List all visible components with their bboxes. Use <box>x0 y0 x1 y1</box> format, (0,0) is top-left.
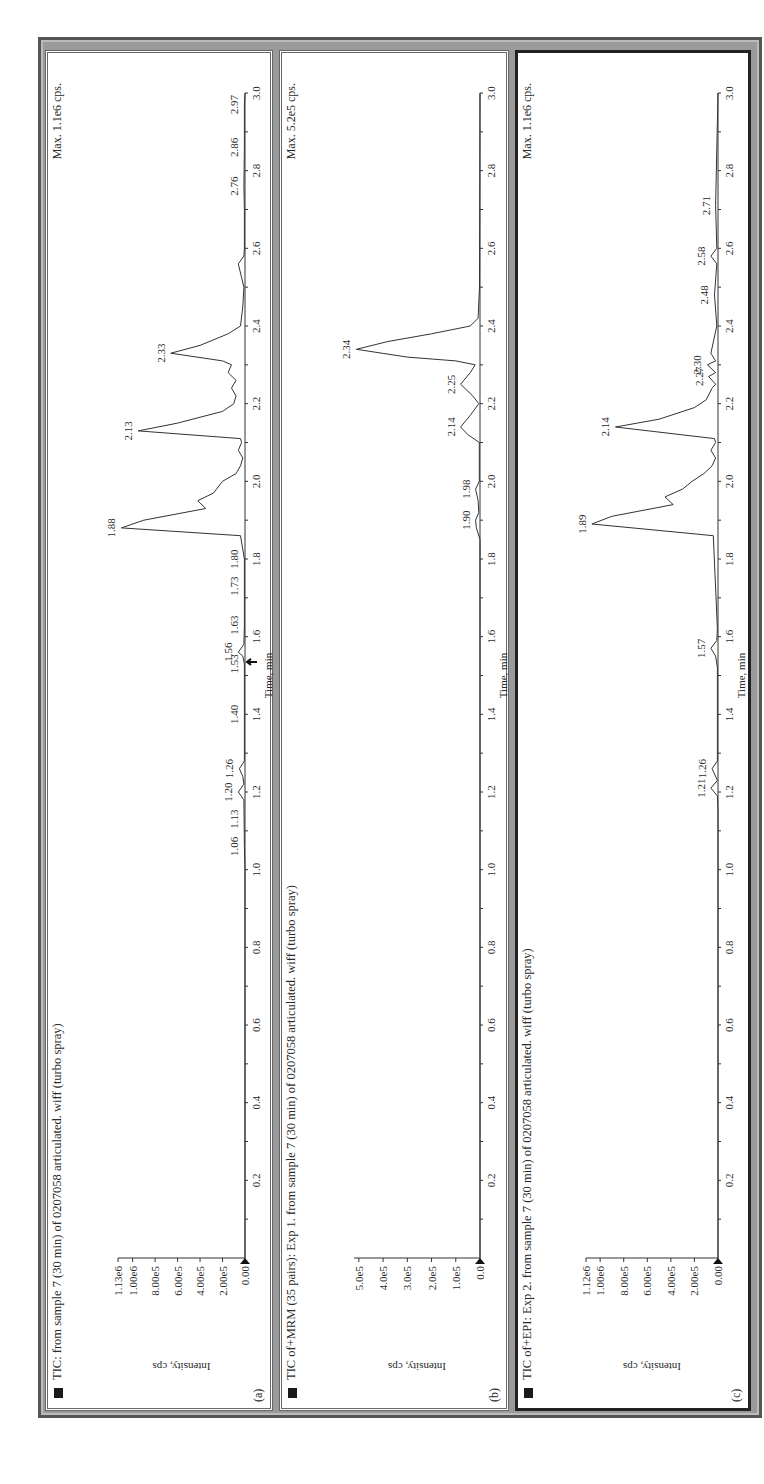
x-tick-label: 2.2 <box>250 397 262 411</box>
y-tick-label: 3.0e5 <box>401 1266 413 1291</box>
peak-label: 1.13 <box>228 809 240 829</box>
x-tick-label: 0.8 <box>250 940 262 954</box>
x-tick-label: 1.0 <box>485 862 497 876</box>
y-tick-label: 0.00 <box>239 1266 251 1286</box>
x-tick-label: 2.0 <box>723 474 735 488</box>
x-tick-label: 2.0 <box>250 474 262 488</box>
y-tick-label: 1.13e6 <box>112 1266 124 1296</box>
panel-c: TIC of+EPI: Exp 2. from sample 7 (30 min… <box>515 50 751 1411</box>
x-tick-label: 2.2 <box>485 397 497 411</box>
x-tick-label: 1.4 <box>485 707 497 721</box>
y-tick-label: 8.00e5 <box>618 1266 630 1296</box>
y-axis-label: Intensity, cps <box>388 1361 446 1373</box>
x-tick-label: 1.8 <box>250 552 262 566</box>
panel-b: TIC of+MRM (35 pairs): Exp 1. from sampl… <box>279 50 509 1411</box>
peak-label: 1.20 <box>222 782 234 802</box>
peak-label: 2.14 <box>599 417 611 437</box>
peak-label: 2.25 <box>445 374 457 394</box>
chromatogram-plot: 0.002.00e54.00e56.00e58.00e51.00e61.13e6… <box>48 47 276 1408</box>
x-tick-label: 1.6 <box>723 629 735 643</box>
x-tick-label: 0.6 <box>723 1018 735 1032</box>
peak-label: 1.88 <box>105 518 117 538</box>
peak-label: 1.63 <box>228 615 240 635</box>
x-tick-label: 0.8 <box>723 940 735 954</box>
cursor-arrow-icon <box>247 659 257 665</box>
y-axis-label: Intensity, cps <box>623 1361 681 1373</box>
x-tick-label: 0.6 <box>250 1018 262 1032</box>
peak-label: 1.21 <box>695 778 707 797</box>
peak-label: 2.76 <box>228 176 240 196</box>
x-tick-label: 2.4 <box>485 319 497 333</box>
x-tick-label: 1.0 <box>250 862 262 876</box>
x-tick-label: 1.4 <box>250 707 262 721</box>
y-tick-label: 1.00e6 <box>127 1266 139 1296</box>
x-tick-label: 3.0 <box>485 86 497 100</box>
x-axis-label: Time, min <box>497 652 509 698</box>
peak-label: 2.13 <box>122 421 134 441</box>
tic-trace <box>356 93 480 1258</box>
panel-a: TIC: from sample 7 (30 min) of 0207058 a… <box>45 50 273 1411</box>
peak-label: 1.80 <box>228 549 240 569</box>
y-tick-label: 8.00e5 <box>149 1266 161 1296</box>
peak-label: 2.33 <box>155 343 167 363</box>
y-tick-label: 1.00e6 <box>594 1266 606 1296</box>
peak-label: 1.98 <box>460 479 472 499</box>
figure-frame: TIC: from sample 7 (30 min) of 0207058 a… <box>38 37 762 1418</box>
y-tick-label: 0.00 <box>712 1266 724 1286</box>
y-tick-label: 6.00e5 <box>641 1266 653 1296</box>
x-tick-label: 3.0 <box>250 86 262 100</box>
origin-marker-icon <box>713 1258 723 1264</box>
y-tick-label: 6.00e5 <box>172 1266 184 1296</box>
x-tick-label: 1.0 <box>723 862 735 876</box>
x-tick-label: 3.0 <box>723 86 735 100</box>
x-tick-label: 1.2 <box>485 785 497 799</box>
tic-trace <box>592 93 718 1258</box>
x-tick-label: 2.6 <box>485 241 497 255</box>
chromatogram-plot: 0.01.0e52.0e53.0e54.0e55.0e5Intensity, c… <box>282 47 512 1408</box>
y-tick-label: 2.00e5 <box>217 1266 229 1296</box>
y-tick-label: 1.0e5 <box>450 1266 462 1291</box>
peak-label: 1.57 <box>695 638 707 658</box>
peak-label: 1.06 <box>228 836 240 856</box>
x-axis-label: Time, min <box>262 652 274 698</box>
x-tick-label: 2.6 <box>723 241 735 255</box>
peak-label: 1.26 <box>223 759 235 779</box>
x-tick-label: 0.4 <box>723 1095 735 1109</box>
y-tick-label: 1.12e6 <box>580 1266 592 1296</box>
peak-label: 2.58 <box>695 246 707 266</box>
x-tick-label: 2.8 <box>485 163 497 177</box>
x-tick-label: 1.6 <box>485 629 497 643</box>
x-tick-label: 1.4 <box>723 707 735 721</box>
x-tick-label: 0.4 <box>250 1095 262 1109</box>
x-tick-label: 2.4 <box>723 319 735 333</box>
chromatogram-plot: 0.002.00e54.00e56.00e58.00e51.00e61.12e6… <box>518 47 754 1408</box>
x-tick-label: 1.2 <box>723 785 735 799</box>
x-tick-label: 0.2 <box>250 1173 262 1187</box>
peak-label: 1.56 <box>222 642 234 662</box>
peak-label: 1.89 <box>576 514 588 534</box>
y-tick-label: 2.0e5 <box>426 1266 438 1291</box>
peak-label: 2.97 <box>228 95 240 115</box>
x-tick-label: 0.2 <box>723 1173 735 1187</box>
y-tick-label: 4.00e5 <box>194 1266 206 1296</box>
x-tick-label: 2.4 <box>250 319 262 333</box>
figure-canvas: TIC: from sample 7 (30 min) of 0207058 a… <box>0 0 764 1484</box>
x-tick-label: 2.0 <box>485 474 497 488</box>
y-tick-label: 5.0e5 <box>353 1266 365 1291</box>
peak-label: 1.90 <box>460 510 472 530</box>
x-tick-label: 2.8 <box>723 163 735 177</box>
x-tick-label: 2.8 <box>250 163 262 177</box>
peak-label: 1.40 <box>228 704 240 724</box>
x-axis-label: Time, min <box>735 652 747 698</box>
x-tick-label: 1.8 <box>723 552 735 566</box>
y-axis-label: Intensity, cps <box>153 1361 211 1373</box>
x-tick-label: 0.6 <box>485 1018 497 1032</box>
peak-label: 2.86 <box>228 137 240 157</box>
peak-label: 2.48 <box>698 285 710 305</box>
y-tick-label: 4.0e5 <box>377 1266 389 1291</box>
peak-label: 1.26 <box>696 759 708 779</box>
x-tick-label: 1.2 <box>250 785 262 799</box>
peak-label: 2.34 <box>340 339 352 359</box>
y-tick-label: 2.00e5 <box>688 1266 700 1296</box>
x-tick-label: 0.4 <box>485 1095 497 1109</box>
